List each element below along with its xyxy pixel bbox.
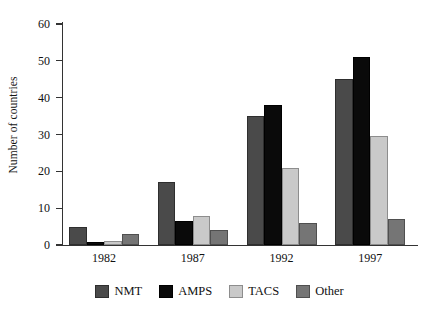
- x-axis-tick-label-1997: 1997: [335, 252, 405, 264]
- legend-label-nmt: NMT: [114, 285, 142, 298]
- legend-label-other: Other: [315, 285, 343, 298]
- x-axis-tick-label-1992: 1992: [247, 252, 317, 264]
- y-axis-tick: [56, 97, 63, 98]
- y-axis-tick: [56, 60, 63, 61]
- bar-tacs-1997: [370, 136, 388, 245]
- legend-item-amps[interactable]: AMPS: [159, 285, 212, 298]
- legend-label-tacs: TACS: [248, 285, 279, 298]
- legend-label-amps: AMPS: [178, 285, 212, 298]
- legend-swatch-tacs: [229, 285, 243, 298]
- bar-chart: Number of countries 0102030405060 198219…: [0, 0, 439, 312]
- y-axis-tick: [56, 171, 63, 172]
- legend-item-other[interactable]: Other: [296, 285, 343, 298]
- y-axis-tick-label: 40: [4, 92, 50, 104]
- plot-area: [63, 24, 418, 245]
- bar-amps-1987: [175, 221, 193, 245]
- y-axis-tick: [56, 23, 63, 24]
- bar-other-1992: [299, 223, 317, 245]
- bar-nmt-1992: [247, 116, 265, 245]
- bar-other-1982: [122, 234, 140, 245]
- legend-swatch-other: [296, 285, 310, 298]
- legend-item-tacs[interactable]: TACS: [229, 285, 279, 298]
- bar-amps-1997: [353, 57, 371, 245]
- y-axis-tick-label: 30: [4, 129, 50, 141]
- y-axis-tick-label: 50: [4, 55, 50, 67]
- y-axis-tick-label: 0: [4, 239, 50, 251]
- legend-swatch-amps: [159, 285, 173, 298]
- chart-legend: NMTAMPSTACSOther: [0, 280, 439, 302]
- bar-other-1997: [388, 219, 406, 245]
- x-axis-line: [58, 245, 418, 246]
- x-axis-tick-label-1987: 1987: [158, 252, 228, 264]
- bar-nmt-1982: [69, 227, 87, 245]
- bar-nmt-1987: [158, 182, 176, 245]
- bar-tacs-1992: [282, 168, 300, 245]
- bar-nmt-1997: [335, 79, 353, 245]
- bar-amps-1982: [87, 242, 105, 245]
- y-axis-tick-label: 20: [4, 165, 50, 177]
- bar-tacs-1982: [104, 241, 122, 245]
- bar-tacs-1987: [193, 216, 211, 245]
- y-axis-tick: [56, 134, 63, 135]
- x-axis-tick-label-1982: 1982: [69, 252, 139, 264]
- bar-amps-1992: [264, 105, 282, 245]
- y-axis-tick: [56, 244, 63, 245]
- y-axis-tick-label: 10: [4, 202, 50, 214]
- y-axis-tick-label: 60: [4, 18, 50, 30]
- legend-swatch-nmt: [95, 285, 109, 298]
- y-axis-tick: [56, 208, 63, 209]
- bar-other-1987: [210, 230, 228, 245]
- legend-item-nmt[interactable]: NMT: [95, 285, 142, 298]
